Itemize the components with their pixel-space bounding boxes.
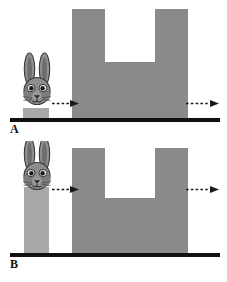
panel-a: A xyxy=(0,0,227,141)
u-base-b xyxy=(72,198,188,253)
rabbit-head-a xyxy=(19,52,55,110)
ground-line-a xyxy=(10,118,220,122)
rabbit-head-b xyxy=(19,141,55,195)
arrow-left-motion-a xyxy=(52,99,80,108)
u-base-a xyxy=(72,62,188,118)
ground-line-b xyxy=(10,253,220,257)
arrow-right-motion-b xyxy=(186,185,220,194)
panel-label-a: A xyxy=(10,123,19,135)
panel-b: B xyxy=(0,141,227,282)
figure-container: A xyxy=(0,0,227,282)
tall-pedestal-b xyxy=(24,187,49,253)
arrow-left-motion-b xyxy=(52,185,80,194)
panel-label-b: B xyxy=(10,258,18,270)
arrow-right-motion-a xyxy=(186,99,220,108)
